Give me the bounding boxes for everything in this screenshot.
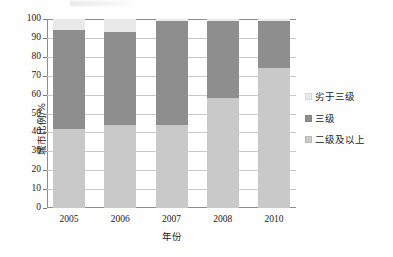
x-axis-tick-label: 2006: [111, 215, 130, 225]
y-axis-tick-label: 100: [27, 14, 41, 24]
x-axis-title: 年份: [47, 232, 296, 242]
legend-label: 二级及以上: [315, 135, 365, 145]
bar-segment[interactable]: [104, 19, 136, 32]
legend-swatch-icon: [305, 136, 312, 143]
bar-column[interactable]: 2008: [207, 19, 239, 208]
legend-item[interactable]: 二级及以上: [305, 135, 365, 145]
y-axis-tick-label: 50: [32, 109, 42, 119]
bar-segment[interactable]: [53, 30, 85, 128]
y-axis-tick: [43, 208, 47, 209]
bar-column[interactable]: 2005: [53, 19, 85, 208]
bar-column[interactable]: 2010: [258, 19, 290, 208]
x-axis-tick-label: 2005: [60, 215, 79, 225]
x-axis-tick-label: 2010: [265, 215, 284, 225]
legend-swatch-icon: [305, 93, 312, 100]
bar-segment[interactable]: [207, 21, 239, 98]
y-axis-tick-label: 20: [32, 165, 42, 175]
legend-label: 劣于三级: [315, 92, 355, 102]
bar-segment[interactable]: [53, 129, 85, 208]
bar-segment[interactable]: [104, 32, 136, 125]
legend-item[interactable]: 劣于三级: [305, 92, 365, 102]
bar-segment[interactable]: [156, 21, 188, 125]
y-axis-tick-label: 0: [36, 203, 41, 213]
y-axis-tick-label: 60: [32, 90, 42, 100]
y-axis-tick-label: 80: [32, 52, 42, 62]
x-axis-tick-label: 2008: [213, 215, 232, 225]
chart-figure: 城市比例/% 0102030405060708090100 2005200620…: [0, 0, 393, 257]
bar-segment[interactable]: [156, 125, 188, 208]
bar-group: 20052006200720082010: [47, 19, 296, 208]
scan-artifact: [70, 1, 130, 6]
y-axis-tick-label: 30: [32, 147, 42, 157]
bar-segment[interactable]: [207, 98, 239, 208]
x-axis-tick-label: 2007: [162, 215, 181, 225]
y-axis-tick-label: 10: [32, 184, 42, 194]
bar-column[interactable]: 2007: [156, 19, 188, 208]
bar-segment[interactable]: [258, 21, 290, 68]
bar-segment[interactable]: [53, 19, 85, 30]
y-axis-tick-label: 70: [32, 71, 42, 81]
y-axis-tick-label: 40: [32, 128, 42, 138]
bar-column[interactable]: 2006: [104, 19, 136, 208]
plot-area: 0102030405060708090100 20052006200720082…: [47, 19, 296, 208]
bar-segment[interactable]: [104, 125, 136, 208]
y-axis-tick-label: 90: [32, 33, 42, 43]
legend-label: 三级: [315, 114, 335, 124]
bar-segment[interactable]: [258, 68, 290, 208]
legend-item[interactable]: 三级: [305, 114, 365, 124]
chart-legend: 劣于三级三级二级及以上: [305, 92, 365, 145]
legend-swatch-icon: [305, 115, 312, 122]
